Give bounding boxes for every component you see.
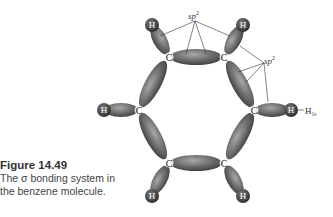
svg-text:sp2: sp2 [188,10,199,21]
svg-text:sp2: sp2 [264,55,275,66]
svg-text:C: C [221,52,228,63]
svg-text:H1s: H1s [305,106,316,117]
svg-text:H: H [240,20,247,30]
caption-line-1: The σ bonding system in [0,172,140,185]
caption-line-2: the benzene molecule. [0,185,140,198]
svg-text:C: C [221,158,228,169]
cc-sigma-bonds [134,49,260,171]
figure-number: Figure 14.49 [0,158,140,172]
svg-text:H: H [149,20,156,30]
svg-text:H: H [101,105,108,115]
svg-text:C: C [251,105,258,116]
figure-caption: Figure 14.49 The σ bonding system in the… [0,158,140,198]
svg-text:H: H [149,191,156,201]
svg-text:H: H [288,105,295,115]
svg-text:H: H [240,191,247,201]
svg-text:C: C [136,105,143,116]
svg-text:C: C [166,52,173,63]
svg-text:C: C [166,158,173,169]
